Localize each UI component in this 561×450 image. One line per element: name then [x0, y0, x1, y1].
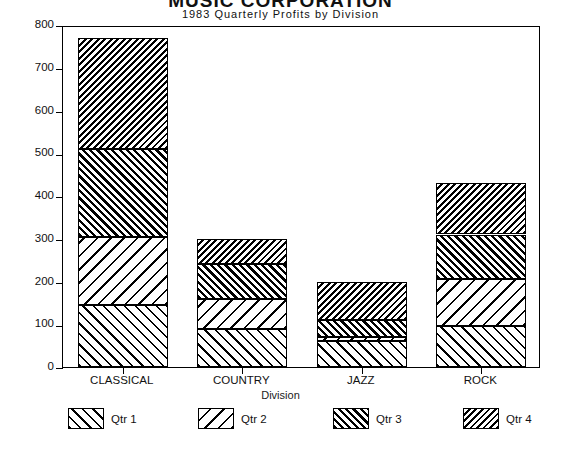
legend-label: Qtr 4 [506, 413, 532, 425]
chart-root: MUSIC CORPORATION 1983 Quarterly Profits… [0, 0, 561, 450]
legend-label: Qtr 2 [241, 413, 267, 425]
legend-item-qtr4[interactable]: Qtr 4 [463, 408, 532, 429]
bar-segment-country-qtr1 [197, 329, 287, 367]
bar-segment-rock-qtr3 [436, 235, 526, 280]
bar-segment-country-qtr4 [197, 239, 287, 265]
bar-segment-classical-qtr4 [78, 38, 168, 149]
legend-swatch-qtr4 [463, 408, 499, 429]
y-tick [56, 155, 63, 156]
y-tick-label: 400 [8, 189, 54, 201]
x-tick [242, 367, 243, 374]
y-tick-label: 100 [8, 317, 54, 329]
x-tick-label-country: COUNTRY [181, 374, 301, 386]
y-tick [56, 368, 63, 369]
y-tick [56, 197, 63, 198]
bar-segment-country-qtr3 [197, 264, 287, 298]
legend-item-qtr3[interactable]: Qtr 3 [333, 408, 402, 429]
chart-legend: Qtr 1Qtr 2Qtr 3Qtr 4 [0, 408, 561, 438]
legend-swatch-qtr3 [333, 408, 369, 429]
bar-segment-country-qtr2 [197, 299, 287, 329]
y-tick-label: 0 [8, 360, 54, 372]
legend-item-qtr2[interactable]: Qtr 2 [198, 408, 267, 429]
y-tick-label: 300 [8, 232, 54, 244]
y-tick-label: 600 [8, 104, 54, 116]
bar-jazz [317, 282, 407, 368]
bar-segment-rock-qtr1 [436, 326, 526, 367]
y-tick [56, 69, 63, 70]
y-tick-label: 200 [8, 275, 54, 287]
x-tick-label-rock: ROCK [420, 374, 540, 386]
bar-segment-rock-qtr2 [436, 279, 526, 326]
y-tick [56, 26, 63, 27]
x-tick [481, 367, 482, 374]
y-tick-label: 500 [8, 146, 54, 158]
bar-rock [436, 183, 526, 367]
x-tick-label-jazz: JAZZ [301, 374, 421, 386]
bar-country [197, 239, 287, 367]
y-tick [56, 112, 63, 113]
bar-segment-classical-qtr1 [78, 305, 168, 367]
legend-label: Qtr 3 [376, 413, 402, 425]
legend-swatch-qtr2 [198, 408, 234, 429]
legend-item-qtr1[interactable]: Qtr 1 [68, 408, 137, 429]
chart-subtitle: 1983 Quarterly Profits by Division [0, 8, 561, 20]
y-tick [56, 283, 63, 284]
bar-segment-jazz-qtr2 [317, 337, 407, 341]
x-tick [362, 367, 363, 374]
bar-segment-jazz-qtr4 [317, 282, 407, 320]
plot-area [62, 26, 540, 368]
x-tick [123, 367, 124, 374]
legend-label: Qtr 1 [111, 413, 137, 425]
y-tick-label: 700 [8, 61, 54, 73]
y-tick [56, 326, 63, 327]
x-axis-title: Division [0, 389, 561, 401]
bar-classical [78, 38, 168, 367]
bar-segment-jazz-qtr1 [317, 341, 407, 367]
y-tick-label: 800 [8, 18, 54, 30]
legend-swatch-qtr1 [68, 408, 104, 429]
bar-segment-rock-qtr4 [436, 183, 526, 234]
bar-segment-classical-qtr2 [78, 237, 168, 305]
bar-segment-classical-qtr3 [78, 149, 168, 237]
x-tick-label-classical: CLASSICAL [62, 374, 182, 386]
y-tick [56, 240, 63, 241]
bar-segment-jazz-qtr3 [317, 320, 407, 337]
